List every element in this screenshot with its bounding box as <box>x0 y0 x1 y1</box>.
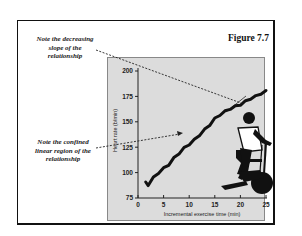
heart-rate-chart: 75100125150175200 0510152025 Heart rate … <box>0 0 302 236</box>
y-tick-label: 175 <box>122 93 133 100</box>
y-tick-label: 125 <box>122 144 133 151</box>
y-axis-label: Heart rate (b/min) <box>112 109 118 152</box>
x-ticks: 0510152025 <box>136 195 270 208</box>
cyclist-torso-icon <box>238 127 262 152</box>
x-tick-label: 25 <box>262 201 270 208</box>
cyclist-illustration <box>221 112 273 194</box>
bike-base-icon <box>221 181 248 190</box>
x-tick-label: 15 <box>211 201 219 208</box>
arrowhead-icon <box>177 131 183 136</box>
y-tick-label: 200 <box>122 67 133 74</box>
x-tick-label: 10 <box>186 201 194 208</box>
y-tick-label: 150 <box>122 118 133 125</box>
x-tick-label: 5 <box>162 201 166 208</box>
y-tick-label: 75 <box>126 194 134 201</box>
x-axis-label: Incremental exercise time (min) <box>164 211 241 217</box>
bike-post-icon <box>264 143 266 174</box>
x-tick-label: 0 <box>136 201 140 208</box>
bike-seat-icon <box>244 159 262 162</box>
x-tick-label: 20 <box>237 201 245 208</box>
cyclist-head-icon <box>243 112 255 124</box>
annotation-arrow-slope <box>96 50 241 103</box>
y-tick-label: 100 <box>122 169 133 176</box>
y-ticks: 75100125150175200 <box>122 67 138 201</box>
